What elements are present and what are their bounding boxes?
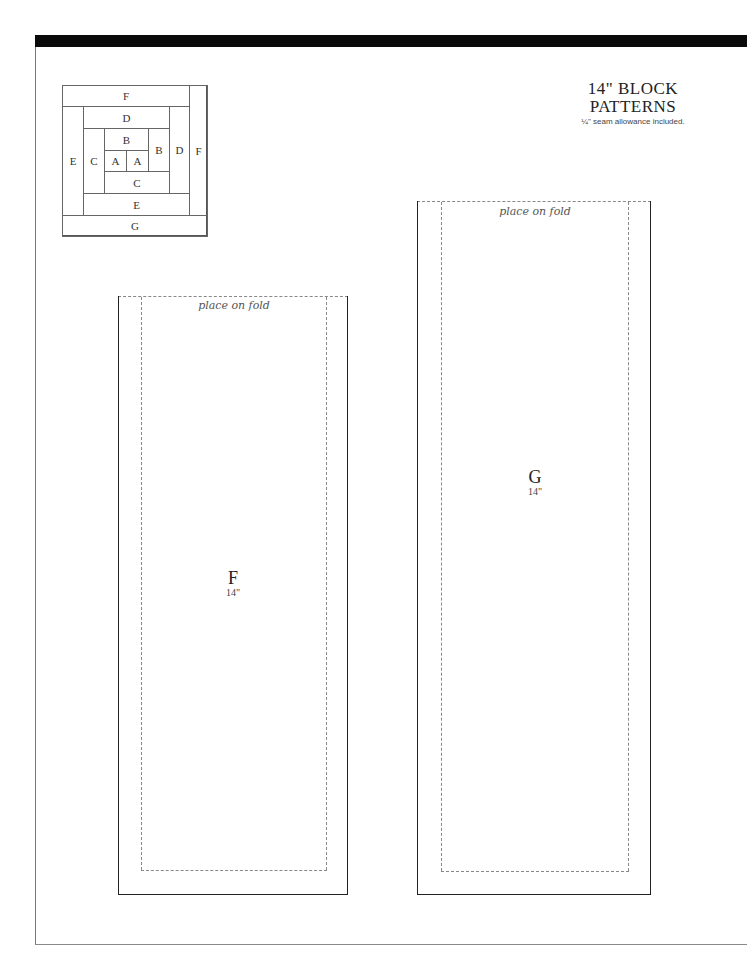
title-block: 14" BLOCK PATTERNS ¼" seam allowance inc… xyxy=(533,80,733,126)
cut-line-bottom-g xyxy=(417,894,651,895)
cut-line-right-g xyxy=(650,201,651,895)
diagram-cell-top-f: F xyxy=(62,85,190,107)
diagram-cell-a-right: A xyxy=(126,150,149,172)
diagram-cell-top-d: D xyxy=(83,106,170,129)
diagram-cell-right-f: F xyxy=(189,85,208,216)
diagram-cell-bottom-c: C xyxy=(104,171,170,194)
seam-line-right-g xyxy=(628,202,629,871)
block-diagram: F D B A A B C C D E E F G xyxy=(62,85,207,236)
seam-line-bottom-g xyxy=(441,871,629,872)
diagram-cell-bottom-e: E xyxy=(83,193,190,216)
piece-letter-g: G xyxy=(505,467,565,488)
seam-line-left-f xyxy=(141,297,142,870)
page-title-line-1: 14" BLOCK xyxy=(533,80,733,98)
cut-line-left-f xyxy=(118,296,119,895)
seam-line-right-f xyxy=(326,297,327,870)
page-frame-left xyxy=(35,47,36,945)
fold-label-g: place on fold xyxy=(441,205,629,218)
diagram-cell-right-b: B xyxy=(148,128,170,172)
header-bar xyxy=(35,35,747,47)
diagram-cell-right-d: D xyxy=(169,106,190,194)
diagram-cell-left-c: C xyxy=(83,128,105,194)
piece-size-g: 14" xyxy=(505,486,565,497)
page-frame-bottom xyxy=(35,944,747,945)
diagram-cell-a-left: A xyxy=(104,150,127,172)
diagram-cell-top-b: B xyxy=(104,128,149,151)
seam-allowance-note: ¼" seam allowance included. xyxy=(533,117,733,126)
diagram-cell-left-e: E xyxy=(62,106,84,216)
cut-line-bottom-f xyxy=(118,894,348,895)
piece-letter-f: F xyxy=(203,568,263,589)
cut-line-left-g xyxy=(417,201,418,895)
cut-line-right-f xyxy=(347,296,348,895)
piece-size-f: 14" xyxy=(203,587,263,598)
fold-line-f xyxy=(118,296,348,297)
page-title-line-2: PATTERNS xyxy=(533,98,733,116)
diagram-cell-bottom-g: G xyxy=(62,215,208,237)
fold-label-f: place on fold xyxy=(141,299,327,312)
seam-line-left-g xyxy=(441,202,442,871)
fold-line-g xyxy=(417,201,651,202)
seam-line-bottom-f xyxy=(141,870,327,871)
